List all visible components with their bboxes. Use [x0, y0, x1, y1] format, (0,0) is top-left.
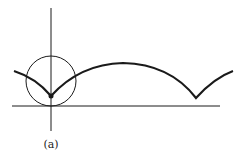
- curve: [14, 63, 233, 98]
- tracing-point: [49, 94, 54, 99]
- diagram: [0, 0, 246, 160]
- figure-label: (a): [43, 138, 58, 151]
